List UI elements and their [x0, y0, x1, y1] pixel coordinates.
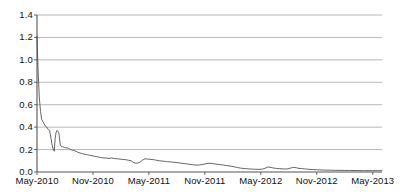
x-axis-tick-label: Nov-2011 [184, 176, 225, 186]
gridlines [37, 15, 382, 150]
data-series-line [37, 36, 382, 170]
y-axis-tick-label: 1.0 [19, 55, 33, 65]
y-axis-tick-label: 1.4 [19, 10, 33, 20]
line-chart: 0.00.20.40.60.81.01.21.4 May-2010Nov-201… [0, 0, 403, 196]
plot-area [37, 15, 382, 172]
y-axis-tick-label: 0.6 [19, 100, 33, 110]
y-axis-tick-label: 0.2 [19, 145, 33, 155]
y-axis-tick-label: 0.8 [19, 78, 33, 88]
plot-svg [37, 15, 382, 172]
x-axis-tick-label: May-2013 [351, 176, 394, 186]
y-axis-tick-label: 0.4 [19, 122, 33, 132]
x-axis-tick-label: May-2010 [15, 176, 58, 186]
y-axis-tick-label: 1.2 [19, 33, 33, 43]
x-axis-labels: May-2010Nov-2010May-2011Nov-2011May-2012… [0, 176, 403, 192]
x-axis-tick-label: May-2011 [128, 176, 170, 186]
x-axis-tick-label: Nov-2012 [296, 176, 338, 186]
x-axis-tick-label: Nov-2010 [72, 176, 114, 186]
x-axis-tick-label: May-2012 [239, 176, 282, 186]
y-axis-labels: 0.00.20.40.60.81.01.21.4 [0, 0, 33, 196]
